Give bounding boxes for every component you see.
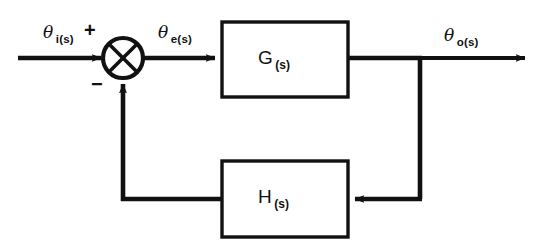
forward-block-label: G(s) — [258, 48, 290, 71]
output-signal-subscript: o(s) — [457, 36, 479, 48]
input-signal-symbol: θ — [43, 22, 53, 42]
output-signal-symbol: θ — [444, 25, 454, 45]
input-signal-subscript: i(s) — [56, 33, 74, 45]
summing-junction-plus-sign: + — [84, 20, 96, 40]
error-signal-subscript: e(s) — [171, 33, 192, 45]
summing-junction-minus-sign: − — [91, 74, 103, 94]
error-signal-label: θe(s) — [158, 24, 192, 45]
output-signal-label: θo(s) — [444, 27, 479, 48]
feedback-block-label: H(s) — [258, 187, 289, 210]
forward-block-symbol: G — [258, 47, 273, 68]
error-signal-symbol: θ — [158, 22, 168, 42]
feedback-block-subscript: (s) — [274, 197, 289, 211]
forward-block-subscript: (s) — [275, 58, 290, 72]
block-diagram: θi(s) θe(s) θo(s) + − G(s) H(s) — [0, 0, 549, 247]
input-signal-label: θi(s) — [43, 24, 74, 45]
feedback-block-symbol: H — [258, 186, 272, 207]
